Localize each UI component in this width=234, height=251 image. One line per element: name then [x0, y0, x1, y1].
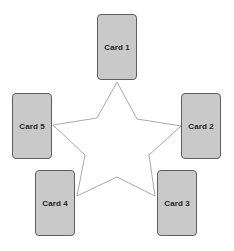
card-5: Card 5: [12, 93, 52, 159]
card-5-label: Card 5: [19, 122, 45, 131]
card-1-label: Card 1: [104, 43, 130, 52]
card-4: Card 4: [35, 170, 75, 236]
card-3-label: Card 3: [164, 199, 190, 208]
star-spread-diagram: Card 1 Card 2 Card 3 Card 4 Card 5: [0, 0, 234, 251]
card-1: Card 1: [97, 14, 137, 80]
card-2-label: Card 2: [188, 122, 214, 131]
card-3: Card 3: [157, 170, 197, 236]
card-4-label: Card 4: [42, 199, 68, 208]
card-2: Card 2: [181, 93, 221, 159]
